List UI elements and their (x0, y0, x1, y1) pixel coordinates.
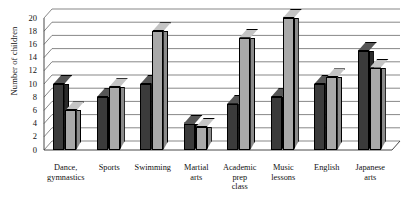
bar-front-face (109, 87, 120, 150)
bar (184, 124, 195, 150)
bar-front-face (283, 18, 294, 150)
bar (239, 38, 250, 150)
bar (271, 97, 282, 150)
bar-front-face (65, 110, 76, 150)
bar-side-face (76, 110, 81, 150)
bar (196, 127, 207, 150)
x-axis-label-line: gymnastics (38, 173, 94, 183)
bar (370, 68, 381, 151)
bar-front-face (326, 77, 337, 150)
bar (53, 84, 64, 150)
bar-front-face (184, 124, 195, 150)
x-axis-label: Japanesearts (343, 163, 399, 182)
bar-side-face (381, 68, 386, 151)
cut-off-caption (66, 194, 346, 202)
bar (140, 84, 151, 150)
bar-top-face (358, 42, 377, 51)
bar-side-face (120, 87, 125, 150)
bar-front-face (196, 127, 207, 150)
bar-front-face (97, 97, 108, 150)
bar-front-face (152, 31, 163, 150)
bar-side-face (250, 38, 255, 150)
bar-side-face (337, 77, 342, 150)
bar (227, 104, 238, 150)
x-axis-label-line: Japanese (343, 163, 399, 173)
bar (97, 97, 108, 150)
bar-side-face (294, 18, 299, 150)
bar-top-face (53, 75, 72, 84)
x-axis-label-line: arts (343, 173, 399, 183)
bar (65, 110, 76, 150)
bar-front-face (239, 38, 250, 150)
bar-front-face (53, 84, 64, 150)
bar-side-face (207, 127, 212, 150)
bar (109, 87, 120, 150)
bar-front-face (271, 97, 282, 150)
bar-top-face (283, 9, 302, 18)
bar-top-face (326, 68, 345, 77)
bar-top-face (239, 29, 258, 38)
bar (152, 31, 163, 150)
bar (326, 77, 337, 150)
bar-front-face (140, 84, 151, 150)
x-axis-label-line: lessons (256, 173, 312, 183)
bar-front-face (314, 84, 325, 150)
bar (283, 18, 294, 150)
x-axis-label-line: class (212, 182, 268, 192)
bar-chart: Number of children 02468101214161820 Dan… (0, 0, 404, 204)
bar-front-face (370, 68, 381, 151)
bar-top-face (109, 78, 128, 87)
bar (358, 51, 369, 150)
bar-front-face (227, 104, 238, 150)
bar (314, 84, 325, 150)
bar-front-face (358, 51, 369, 150)
bar-top-face (152, 22, 171, 31)
bar-side-face (163, 31, 168, 150)
